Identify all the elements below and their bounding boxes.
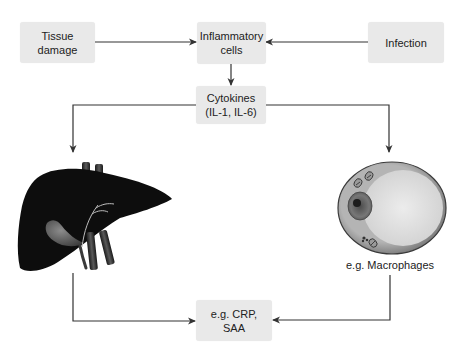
node-cytokines-label: Cytokines (IL-1, IL-6) — [205, 91, 256, 119]
node-acute-phase-proteins: e.g. CRP, SAA — [196, 300, 272, 341]
arrow-liver-to-crp — [73, 273, 195, 321]
arrow-cytokines-to-macrophage — [266, 105, 389, 152]
node-acute-phase-proteins-label: e.g. CRP, SAA — [211, 307, 257, 335]
node-infection-label: Infection — [385, 36, 427, 50]
arrow-macrophage-to-crp — [273, 275, 390, 320]
node-tissue-damage: Tissue damage — [20, 22, 95, 63]
acute-phase-response-diagram: Tissue damage Inflammatory cells Infecti… — [0, 0, 462, 357]
node-cytokines: Cytokines (IL-1, IL-6) — [196, 86, 266, 124]
node-inflammatory-cells: Inflammatory cells — [197, 22, 266, 64]
arrow-cytokines-to-liver — [73, 105, 196, 152]
macrophage-label: e.g. Macrophages — [340, 259, 440, 272]
node-inflammatory-cells-label: Inflammatory cells — [200, 29, 264, 57]
node-infection: Infection — [368, 22, 444, 63]
node-tissue-damage-label: Tissue damage — [38, 29, 78, 57]
